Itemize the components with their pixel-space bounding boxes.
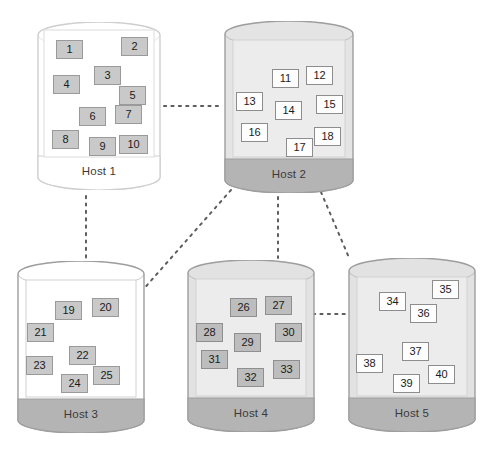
vm-box[interactable]: 28	[196, 323, 223, 342]
vm-box[interactable]: 20	[92, 298, 119, 317]
vm-box[interactable]: 35	[432, 280, 459, 299]
vm-box[interactable]: 9	[89, 137, 116, 156]
vm-box[interactable]: 4	[53, 75, 80, 94]
host-label: Host 1	[37, 165, 161, 177]
vm-box[interactable]: 40	[428, 365, 455, 384]
vm-box[interactable]: 26	[230, 298, 257, 317]
link-host2-host5	[321, 192, 350, 260]
vm-box[interactable]: 16	[241, 123, 268, 142]
vm-box[interactable]: 11	[272, 69, 299, 88]
vm-box[interactable]: 5	[119, 86, 146, 105]
vm-box[interactable]: 15	[316, 95, 343, 114]
vm-box[interactable]: 21	[27, 323, 54, 342]
vm-box[interactable]: 7	[115, 105, 142, 124]
vm-box[interactable]: 8	[52, 130, 79, 149]
vm-box[interactable]: 38	[356, 354, 383, 373]
vm-box[interactable]: 31	[201, 350, 228, 369]
vm-box[interactable]: 12	[306, 66, 333, 85]
vm-box[interactable]: 13	[236, 92, 263, 111]
vm-box[interactable]: 3	[94, 66, 121, 85]
vm-box[interactable]: 6	[79, 107, 106, 126]
vm-box[interactable]: 14	[275, 101, 302, 120]
vm-box[interactable]: 34	[379, 292, 406, 311]
vm-box[interactable]: 25	[93, 366, 120, 385]
vm-box[interactable]: 33	[273, 360, 300, 379]
host-node-2[interactable]: 1112131415161718Host 2	[224, 21, 354, 193]
vm-box[interactable]: 36	[410, 304, 437, 323]
host-node-1[interactable]: 12345678910Host 1	[37, 22, 161, 190]
vm-box[interactable]: 29	[234, 333, 261, 352]
vm-box[interactable]: 24	[61, 374, 88, 393]
vm-box[interactable]: 10	[119, 135, 148, 154]
vm-box[interactable]: 18	[314, 127, 341, 146]
vm-box[interactable]: 39	[393, 374, 420, 393]
vm-box[interactable]: 1	[56, 40, 83, 59]
host-label: Host 3	[17, 408, 145, 420]
vm-box[interactable]: 32	[237, 368, 264, 387]
vm-box[interactable]: 19	[55, 301, 82, 320]
vm-box[interactable]: 22	[69, 346, 96, 365]
diagram-canvas: 12345678910Host 11112131415161718Host 21…	[0, 0, 487, 451]
host-node-3[interactable]: 19202122232425Host 3	[17, 261, 145, 433]
host-label: Host 5	[348, 407, 476, 419]
vm-box[interactable]: 27	[265, 296, 292, 315]
vm-box[interactable]: 23	[26, 356, 53, 375]
host-node-5[interactable]: 34353637383940Host 5	[348, 258, 476, 432]
vm-box[interactable]: 2	[121, 37, 148, 56]
vm-box[interactable]: 30	[275, 323, 302, 342]
vm-box[interactable]: 17	[286, 138, 313, 157]
host-node-4[interactable]: 2627282930313233Host 4	[187, 260, 315, 432]
host-label: Host 2	[224, 168, 354, 180]
vm-box[interactable]: 37	[402, 342, 429, 361]
host-label: Host 4	[187, 407, 315, 419]
